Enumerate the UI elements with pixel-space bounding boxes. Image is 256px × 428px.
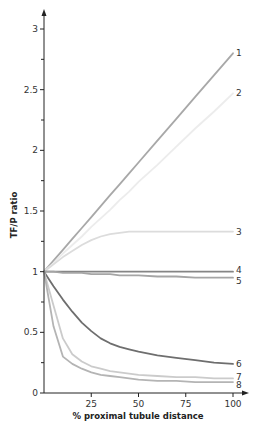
x-tick-label: 75 — [180, 399, 191, 409]
line-labels: 12345678 — [236, 48, 242, 390]
series-label-6: 6 — [236, 359, 242, 369]
y-tick-label: 1.5 — [24, 206, 38, 216]
y-axis-title: TF/P ratio — [9, 192, 19, 239]
series-line-1 — [44, 53, 233, 271]
y-tick-label: 1 — [32, 267, 38, 277]
series-line-6 — [44, 272, 233, 364]
x-axis-arrow-icon — [242, 391, 249, 396]
series-label-4: 4 — [236, 265, 242, 275]
series-line-2 — [44, 93, 233, 271]
x-axis-title: % proximal tubule distance — [72, 411, 203, 421]
series-label-1: 1 — [236, 48, 242, 58]
series-line-8 — [44, 272, 233, 382]
y-tick-label: 2.5 — [24, 85, 38, 95]
series-label-2: 2 — [236, 88, 242, 98]
y-tick-label: 0 — [32, 388, 38, 398]
series-label-5: 5 — [236, 276, 242, 286]
y-ticks: 00.511.522.53 — [24, 24, 44, 398]
y-axis-arrow-icon — [42, 9, 47, 16]
series-label-8: 8 — [236, 380, 242, 390]
axes — [42, 9, 250, 396]
x-tick-label: 100 — [224, 399, 241, 409]
x-tick-label: 50 — [133, 399, 145, 409]
tfp-ratio-chart: 00.511.522.53 255075100 12345678 % proxi… — [0, 0, 256, 428]
x-tick-label: 25 — [86, 399, 97, 409]
series-line-7 — [44, 272, 233, 379]
y-tick-label: 2 — [32, 145, 38, 155]
series-lines — [44, 53, 233, 382]
x-ticks: 255075100 — [86, 393, 242, 409]
series-label-3: 3 — [236, 227, 242, 237]
y-tick-label: 0.5 — [24, 327, 38, 337]
y-tick-label: 3 — [32, 24, 38, 34]
